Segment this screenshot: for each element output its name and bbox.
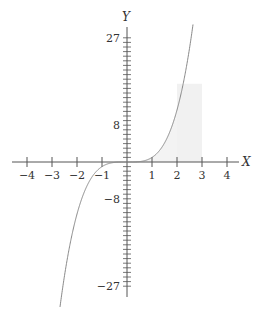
- x-tick-label: −2: [69, 169, 85, 182]
- shaded-under-curve: [127, 110, 177, 162]
- y-tick-label: −27: [97, 280, 120, 293]
- shaded-region: [127, 84, 202, 162]
- y-tick-label: −8: [104, 193, 120, 206]
- x-tick-label: 3: [199, 169, 206, 182]
- x-tick-label: −4: [19, 169, 35, 182]
- x-tick-label: 4: [224, 169, 231, 182]
- x-axis-label: X: [241, 155, 251, 169]
- x-tick-label: 1: [149, 169, 156, 182]
- x-tick-label: −3: [44, 169, 60, 182]
- y-axis-label: Y: [122, 10, 131, 24]
- chart-container: −4−3−2−11234278−8−27 X Y: [0, 0, 264, 315]
- y-tick-label: 8: [113, 119, 120, 132]
- x-tick-label: 2: [174, 169, 181, 182]
- function-plot: −4−3−2−11234278−8−27 X Y: [0, 0, 264, 315]
- y-tick-label: 27: [106, 32, 120, 45]
